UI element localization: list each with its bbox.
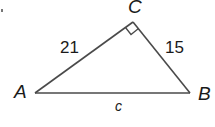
vertex-label-b: B bbox=[198, 83, 211, 104]
side-cb bbox=[133, 22, 190, 93]
side-label-ab: c bbox=[115, 98, 122, 114]
triangle-diagram: A B C 21 15 c bbox=[0, 0, 215, 127]
right-angle-marker bbox=[126, 28, 139, 35]
vertex-label-c: C bbox=[128, 0, 142, 17]
side-label-ac: 21 bbox=[60, 38, 79, 57]
side-ac bbox=[35, 22, 133, 93]
side-label-cb: 15 bbox=[165, 38, 184, 57]
vertex-label-a: A bbox=[13, 81, 27, 102]
cropped-mark bbox=[1, 9, 3, 12]
